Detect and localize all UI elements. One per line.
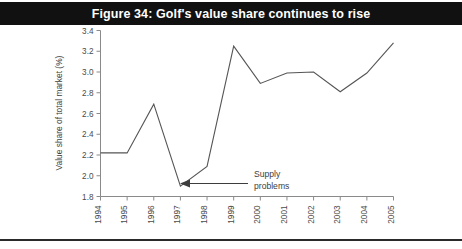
y-axis-tick-labels: 1.82.02.22.42.62.83.03.23.4 (82, 27, 94, 202)
x-tick-label: 1994 (94, 205, 103, 224)
y-tick-label: 2.4 (82, 130, 94, 139)
x-tick-label: 2001 (280, 205, 289, 224)
x-tick-label: 1996 (147, 205, 156, 224)
x-tick-label: 2000 (253, 205, 262, 224)
y-tick-label: 2.6 (82, 110, 94, 119)
x-axis-tick-labels: 1994199519961997199819992000200120022003… (94, 205, 396, 224)
y-axis-title: Value share of total market (%) (54, 55, 64, 170)
y-tick-label: 1.8 (82, 193, 94, 202)
figure-container: Figure 34: Golf's value share continues … (0, 0, 462, 249)
y-tick-label: 2.2 (82, 151, 94, 160)
y-tick-label: 2.0 (82, 172, 94, 181)
x-tick-label: 2005 (387, 205, 396, 224)
figure-bottom-rule (0, 239, 462, 241)
y-tick-label: 2.8 (82, 89, 94, 98)
page-title: Figure 34: Golf's value share continues … (92, 7, 371, 21)
chart-plot-area: 1.82.02.22.42.62.83.03.23.4 199419951996… (0, 25, 462, 239)
annotation-arrow-head (180, 180, 190, 188)
x-tick-label: 2004 (360, 205, 369, 224)
supply-problems-annotation: Supply problems (180, 169, 289, 191)
y-axis-ticks (97, 31, 101, 197)
annotation-line-1: Supply (254, 169, 281, 179)
x-axis-ticks (101, 197, 394, 201)
x-tick-label: 2003 (333, 205, 342, 224)
y-tick-label: 3.2 (82, 47, 94, 56)
line-chart-svg: 1.82.02.22.42.62.83.03.23.4 199419951996… (0, 25, 462, 239)
annotation-line-2: problems (254, 181, 289, 191)
x-tick-label: 1995 (120, 205, 129, 224)
x-tick-label: 1997 (173, 205, 182, 224)
y-tick-label: 3.0 (82, 68, 94, 77)
data-series-line (101, 43, 394, 186)
figure-title-bar: Figure 34: Golf's value share continues … (0, 2, 462, 25)
y-tick-label: 3.4 (82, 27, 94, 36)
x-tick-label: 1999 (227, 205, 236, 224)
x-tick-label: 2002 (307, 205, 316, 224)
x-tick-label: 1998 (200, 205, 209, 224)
